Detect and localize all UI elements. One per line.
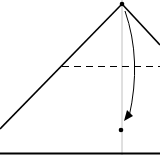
- fold-arrow-head-icon: [124, 110, 133, 121]
- target-point: [119, 128, 124, 133]
- top-point: [120, 2, 125, 7]
- origami-diagram: [0, 0, 160, 155]
- right-edge: [122, 4, 160, 45]
- fold-arrow: [125, 11, 135, 117]
